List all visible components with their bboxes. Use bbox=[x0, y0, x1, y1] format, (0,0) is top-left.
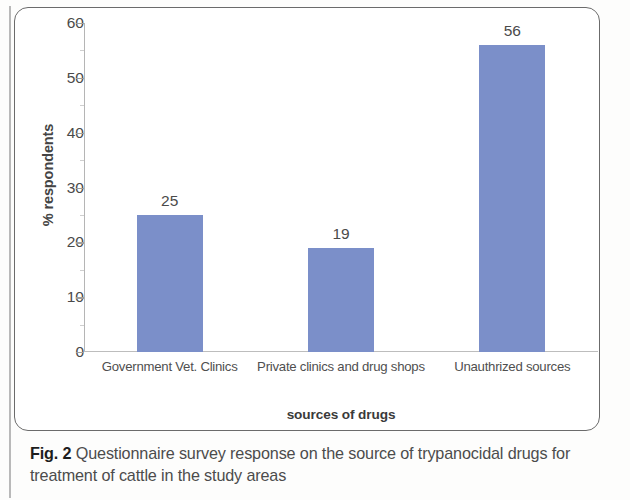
x-category-label-0: Government Vet. Clinics bbox=[84, 359, 255, 376]
figure-caption: Fig. 2 Questionnaire survey response on … bbox=[30, 443, 606, 486]
y-tick-mark-30 bbox=[76, 188, 84, 189]
x-category-label-1: Private clinics and drug shops bbox=[255, 359, 426, 376]
page-column-rule bbox=[9, 6, 11, 498]
y-tick-mark-20 bbox=[76, 242, 84, 243]
y-axis-tick-labels: 60 50 40 30 20 10 0 bbox=[40, 7, 84, 431]
x-axis-title: sources of drugs bbox=[84, 407, 598, 422]
bar-chart: % respondents 60 50 40 30 20 10 0 25 19 … bbox=[14, 7, 600, 431]
bar-value-label-1: 19 bbox=[301, 226, 381, 242]
y-tick-mark-60 bbox=[76, 23, 84, 24]
y-tick-mark-40 bbox=[76, 133, 84, 134]
x-category-label-2: Unauthrized sources bbox=[427, 359, 598, 376]
figure-caption-text: Questionnaire survey response on the sou… bbox=[30, 444, 570, 484]
plot-area: 25 19 56 bbox=[84, 23, 598, 352]
figure-caption-label: Fig. 2 bbox=[30, 444, 71, 462]
bar-unauthrized-sources[interactable] bbox=[479, 45, 545, 352]
y-tick-mark-10 bbox=[76, 297, 84, 298]
bar-government-vet-clinics[interactable] bbox=[137, 215, 203, 352]
bar-value-label-2: 56 bbox=[472, 23, 552, 39]
bar-private-clinics-and-drug-shops[interactable] bbox=[308, 248, 374, 352]
y-tick-mark-0 bbox=[76, 352, 84, 353]
y-tick-mark-50 bbox=[76, 78, 84, 79]
bar-value-label-0: 25 bbox=[130, 193, 210, 209]
